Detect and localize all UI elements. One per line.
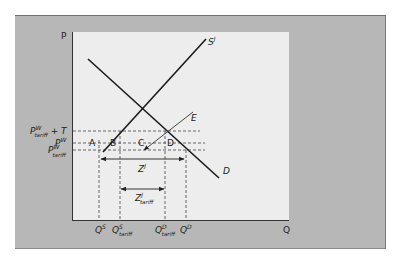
- supply-demand-diagram: P Q SJ D E PWtariff+ T PW PWtariff A B C…: [0, 0, 403, 261]
- imports-free-trade-label: ZJ: [137, 162, 146, 174]
- area-d-label: D: [167, 138, 174, 148]
- excess-label: E: [191, 113, 197, 123]
- area-a-label: A: [89, 138, 96, 148]
- qd-tariff-label: QDtariff: [155, 223, 176, 237]
- demand-label: D: [223, 166, 230, 176]
- y-axis-label: P: [61, 31, 67, 41]
- x-axis-label: Q: [283, 225, 290, 235]
- qd-label: QD: [180, 223, 192, 235]
- supply-curve: [103, 39, 206, 152]
- price-label-tariff: PWtariff: [48, 143, 67, 158]
- area-c-label: C: [138, 138, 144, 148]
- supply-label: SJ: [208, 35, 216, 47]
- imports-tariff-label: ZJtariff: [134, 191, 154, 205]
- area-b-label: B: [110, 138, 116, 148]
- demand-curve: [88, 59, 219, 178]
- qs-label: QS: [95, 223, 106, 235]
- qs-tariff-label: QStariff: [112, 223, 133, 237]
